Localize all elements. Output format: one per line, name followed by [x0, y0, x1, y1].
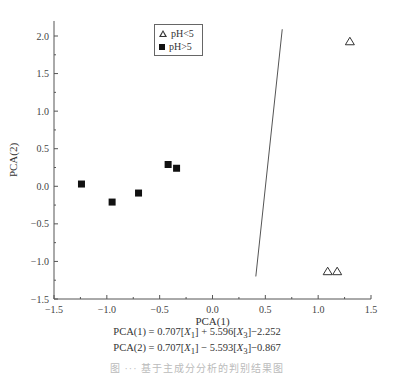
equation-pca2: PCA(2) = 0.707[X1] − 5.593[X3]−0.867: [0, 342, 394, 356]
x-tick-label: −1.0: [98, 304, 116, 315]
x-tick-label: 0.5: [259, 304, 272, 315]
data-point-square: [173, 165, 180, 172]
legend-item-ph-above-5: pH>5: [159, 41, 192, 52]
data-point-square: [109, 199, 116, 206]
eq-text: ]−2.252: [248, 326, 281, 337]
data-point-square: [78, 181, 85, 188]
eq-text: PCA(1) = 0.707[: [113, 326, 184, 337]
x-tick-label: 1.0: [312, 304, 325, 315]
x-tick-label: 1.5: [365, 304, 378, 315]
y-tick-label: 0.0: [37, 181, 50, 192]
legend-item-ph-below-5: pH<5: [159, 28, 194, 39]
equation-pca1: PCA(1) = 0.707[X1] + 5.596[X3]−2.252: [0, 326, 394, 340]
legend: pH<5 pH>5: [154, 24, 203, 56]
y-tick-label: 1.5: [37, 68, 50, 79]
eq-text: ] + 5.596[: [195, 326, 237, 337]
legend-label: pH<5: [171, 28, 194, 39]
data-point-triangle: [323, 267, 332, 275]
plot-area: [78, 29, 354, 276]
y-axis-title: PCA(2): [7, 143, 20, 178]
x-tick-label: −1.5: [45, 304, 63, 315]
y-tick-label: −1.0: [31, 256, 49, 267]
filled-square-icon: [159, 44, 165, 50]
y-tick-label: 2.0: [37, 31, 50, 42]
data-point-triangle: [333, 267, 342, 275]
data-point-triangle: [345, 37, 354, 45]
eq-text: PCA(2) = 0.707[: [113, 342, 184, 353]
legend-label: pH>5: [169, 41, 192, 52]
data-point-square: [165, 161, 172, 168]
y-tick-label: −0.5: [31, 218, 49, 229]
axes: −1.5−1.0−0.50.00.51.01.5−1.5−1.0−0.50.00…: [7, 21, 377, 328]
y-tick-label: 0.5: [37, 143, 50, 154]
figure-caption: 图 ··· 基于主成分分析的判别结果图: [0, 360, 394, 375]
open-triangle-icon: [159, 30, 167, 37]
data-point-square: [135, 190, 142, 197]
x-tick-label: −0.5: [151, 304, 169, 315]
y-tick-label: −1.5: [31, 294, 49, 305]
eq-text: ]−0.867: [248, 342, 281, 353]
x-tick-label: 0.0: [206, 304, 219, 315]
y-tick-label: 1.0: [37, 106, 50, 117]
eq-text: ] − 5.593[: [195, 342, 237, 353]
discriminant-line: [256, 29, 282, 276]
